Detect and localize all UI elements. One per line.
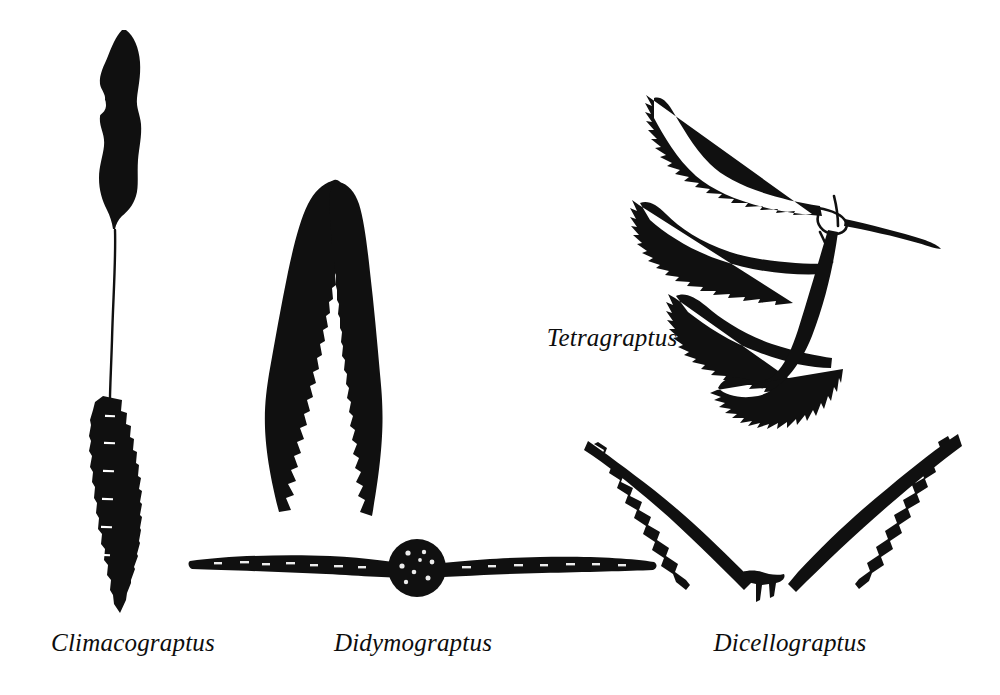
label-tetragraptus: Tetragraptus	[547, 325, 678, 350]
label-didymograptus: Didymograptus	[334, 630, 492, 655]
graptolite-plate-drawing	[0, 0, 1000, 695]
didymograptus-h-central-disc	[388, 539, 446, 597]
graptolite-figure: Climacograptus Didymograptus Tetragraptu…	[0, 0, 1000, 695]
label-climacograptus: Climacograptus	[51, 630, 215, 655]
label-dicellograptus: Dicellograptus	[714, 630, 867, 655]
plate-background	[0, 0, 1000, 695]
